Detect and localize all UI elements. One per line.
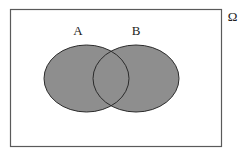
set-b-label: B: [132, 23, 141, 38]
set-a-label: A: [73, 23, 83, 38]
venn-diagram: A B Ω: [0, 0, 245, 154]
universe-label: Ω: [228, 9, 238, 24]
